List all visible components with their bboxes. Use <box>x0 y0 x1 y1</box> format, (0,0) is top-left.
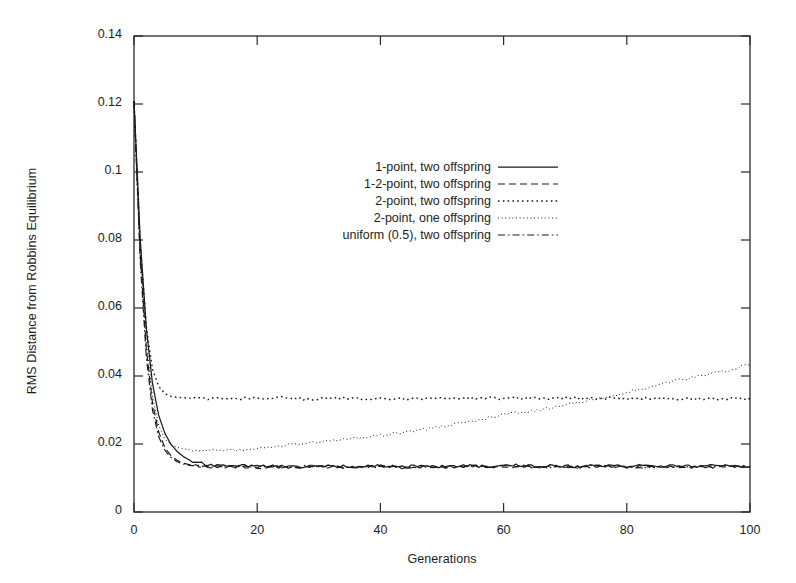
series-line <box>134 101 750 469</box>
y-tick-label: 0 <box>62 503 122 517</box>
legend-line-swatch <box>498 195 558 207</box>
legend-entry: uniform (0.5), two offspring <box>300 226 558 243</box>
y-tick-label: 0.08 <box>62 231 122 245</box>
chart-figure: RMS Distance from Robbins Equilibrium Ge… <box>0 0 796 583</box>
series-line <box>134 101 750 468</box>
y-tick-label: 0.1 <box>62 163 122 177</box>
legend-label: 1-point, two offspring <box>300 160 498 174</box>
chart-legend: 1-point, two offspring1-2-point, two off… <box>300 158 558 243</box>
legend-label: 1-2-point, two offspring <box>300 177 498 191</box>
y-tick-label: 0.04 <box>62 367 122 381</box>
legend-line-swatch <box>498 178 558 190</box>
x-tick-label: 0 <box>104 523 164 537</box>
legend-label: 2-point, one offspring <box>300 211 498 225</box>
x-axis-label: Generations <box>134 552 750 566</box>
legend-line-swatch <box>498 161 558 173</box>
legend-line-swatch <box>498 212 558 224</box>
legend-line-swatch <box>498 229 558 241</box>
y-tick-label: 0.06 <box>62 299 122 313</box>
y-tick-label: 0.02 <box>62 435 122 449</box>
y-tick-label: 0.12 <box>62 95 122 109</box>
legend-entry: 1-2-point, two offspring <box>300 175 558 192</box>
legend-label: uniform (0.5), two offspring <box>300 228 498 242</box>
x-tick-label: 60 <box>474 523 534 537</box>
legend-entry: 2-point, two offspring <box>300 192 558 209</box>
x-tick-label: 20 <box>227 523 287 537</box>
series-line <box>134 101 750 468</box>
legend-label: 2-point, two offspring <box>300 194 498 208</box>
series-line <box>134 101 750 400</box>
y-axis-label: RMS Distance from Robbins Equilibrium <box>25 131 39 431</box>
legend-entry: 2-point, one offspring <box>300 209 558 226</box>
y-tick-label: 0.14 <box>62 27 122 41</box>
x-tick-label: 80 <box>597 523 657 537</box>
x-tick-label: 40 <box>350 523 410 537</box>
plot-canvas <box>0 0 796 583</box>
x-tick-label: 100 <box>720 523 780 537</box>
legend-entry: 1-point, two offspring <box>300 158 558 175</box>
